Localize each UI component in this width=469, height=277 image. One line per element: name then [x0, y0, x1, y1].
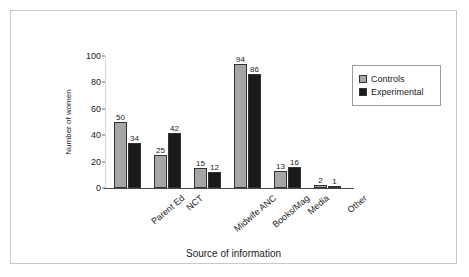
bar-value-label: 1 — [332, 177, 336, 186]
bar-experimental[interactable]: 12 — [208, 172, 221, 188]
x-axis-title: Source of information — [11, 248, 456, 259]
y-tick-mark — [102, 82, 105, 83]
legend-label-experimental: Experimental — [371, 87, 424, 97]
y-tick-mark — [102, 135, 105, 136]
bar-controls[interactable]: 50 — [114, 122, 127, 188]
x-tick-label: Media — [306, 193, 331, 216]
y-tick-mark — [102, 56, 105, 57]
y-tick-label: 100 — [86, 51, 101, 61]
plot-area: 0204060801005034254215129486131621 — [106, 56, 351, 188]
x-tick-label: Parent Ed — [149, 193, 186, 226]
bar-value-label: 16 — [290, 158, 299, 167]
y-tick-label: 60 — [91, 104, 101, 114]
y-tick-mark — [102, 108, 105, 109]
bar-experimental[interactable]: 42 — [168, 133, 181, 188]
bar-value-label: 94 — [236, 55, 245, 64]
bar-group: 1316 — [274, 56, 302, 188]
bar-experimental[interactable]: 86 — [248, 74, 261, 188]
bar-value-label: 34 — [130, 134, 139, 143]
bar-value-label: 13 — [276, 162, 285, 171]
legend-item-experimental[interactable]: Experimental — [359, 87, 434, 97]
bar-value-label: 25 — [156, 146, 165, 155]
bar-value-label: 50 — [116, 113, 125, 122]
bar-value-label: 15 — [196, 159, 205, 168]
bar-group: 2542 — [154, 56, 182, 188]
y-tick-label: 80 — [91, 77, 101, 87]
bar-controls[interactable]: 13 — [274, 171, 287, 188]
x-tick-label: Other — [345, 193, 369, 215]
legend-swatch-controls — [359, 75, 367, 83]
x-tick-label: NCT — [184, 193, 205, 213]
legend-label-controls: Controls — [371, 74, 405, 84]
bar-value-label: 12 — [210, 163, 219, 172]
bar-experimental[interactable]: 1 — [328, 186, 341, 188]
y-tick-label: 20 — [91, 157, 101, 167]
bar-group: 9486 — [234, 56, 262, 188]
bar-group: 1512 — [194, 56, 222, 188]
bar-value-label: 2 — [318, 176, 322, 185]
bar-group: 21 — [314, 56, 342, 188]
bar-controls[interactable]: 2 — [314, 185, 327, 188]
y-axis-title: Number of women — [64, 89, 73, 154]
y-tick-label: 0 — [96, 183, 101, 193]
x-tick-label: Midwife ANC — [232, 193, 278, 234]
bar-experimental[interactable]: 16 — [288, 167, 301, 188]
x-axis-baseline — [104, 188, 354, 189]
y-tick-mark — [102, 188, 105, 189]
bar-controls[interactable]: 25 — [154, 155, 167, 188]
bar-controls[interactable]: 15 — [194, 168, 207, 188]
bar-controls[interactable]: 94 — [234, 64, 247, 188]
bar-group: 5034 — [114, 56, 142, 188]
bar-value-label: 86 — [250, 65, 259, 74]
y-tick-label: 40 — [91, 130, 101, 140]
y-tick-mark — [102, 161, 105, 162]
legend-item-controls[interactable]: Controls — [359, 74, 434, 84]
bar-experimental[interactable]: 34 — [128, 143, 141, 188]
bar-value-label: 42 — [170, 124, 179, 133]
chart-legend: Controls Experimental — [352, 65, 441, 106]
legend-swatch-experimental — [359, 88, 367, 96]
chart-frame: Number of women 020406080100503425421512… — [10, 10, 457, 264]
